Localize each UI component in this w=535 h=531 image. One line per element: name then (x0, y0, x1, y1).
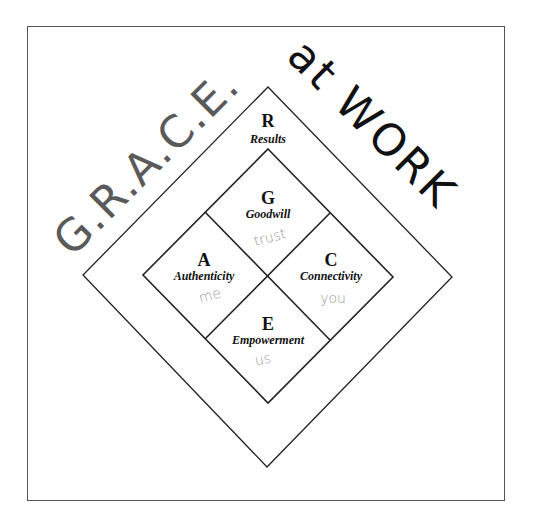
grace-diagram: G.R.A.C.E. at WORK R Results G Goodwill … (0, 0, 535, 531)
quadrant-g-note: trust (252, 225, 288, 249)
quadrant-a-label: Authenticity (173, 269, 235, 283)
quadrant-c-letter: C (325, 250, 338, 270)
quadrant-g-label: Goodwill (246, 207, 291, 221)
quadrant-c-note: you (320, 290, 346, 306)
outer-label: Results (249, 132, 286, 146)
title-acronym: G.R.A.C.E. (43, 59, 249, 265)
quadrant-g-letter: G (261, 188, 275, 208)
title-suffix: at WORK (278, 29, 467, 218)
quadrant-e-letter: E (262, 314, 274, 334)
quadrant-e-label: Empowerment (231, 333, 305, 347)
quadrant-c-label: Connectivity (300, 269, 363, 283)
quadrant-a-note: me (197, 284, 223, 305)
quadrant-a-letter: A (198, 250, 211, 270)
outer-letter: R (262, 111, 276, 131)
quadrant-e-note: us (253, 350, 272, 369)
